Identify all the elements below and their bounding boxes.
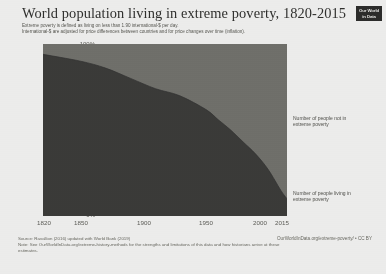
x-axis-tick-1950: 1950 bbox=[186, 219, 226, 226]
x-axis-tick-1850: 1850 bbox=[61, 219, 101, 226]
plot-area bbox=[43, 44, 287, 216]
footer-note-2: estimates. bbox=[18, 248, 370, 254]
x-axis-tick-1900: 1900 bbox=[124, 219, 164, 226]
chart-subtitle: Extreme poverty is defined as living on … bbox=[22, 23, 322, 35]
footer-attribution[interactable]: OurWorldInData.org/extreme-poverty/ • CC… bbox=[277, 236, 372, 241]
logo-line-2: in Data bbox=[362, 14, 376, 19]
x-axis-tick-2015: 2015 bbox=[262, 219, 302, 226]
annotation-in-extreme-poverty: Number of people living in extreme pover… bbox=[293, 190, 363, 203]
chart-card: World population living in extreme pover… bbox=[0, 0, 386, 274]
page-title: World population living in extreme pover… bbox=[22, 6, 322, 21]
annotation-not-in-extreme-poverty: Number of people not in extreme poverty bbox=[293, 115, 363, 128]
stacked-area-chart bbox=[43, 44, 287, 216]
subtitle-line-2: International-$ are adjusted for price d… bbox=[22, 29, 322, 35]
chart-header: World population living in extreme pover… bbox=[22, 6, 322, 35]
x-axis-tick-1820: 1820 bbox=[24, 219, 64, 226]
our-world-in-data-logo[interactable]: Our World in Data bbox=[356, 6, 382, 21]
